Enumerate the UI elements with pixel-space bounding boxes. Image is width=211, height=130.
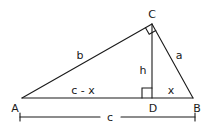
dimension-label-c: c — [107, 111, 113, 124]
side-label-h: h — [140, 64, 147, 77]
vertex-label-C: C — [148, 8, 156, 21]
vertex-label-B: B — [193, 102, 201, 115]
vertex-label-D: D — [149, 102, 157, 115]
right-angle-marker-D — [142, 88, 152, 98]
vertex-label-A: A — [11, 102, 19, 115]
side-label-b: b — [77, 49, 84, 62]
side-label-a: a — [176, 49, 183, 62]
side-label-c-minus-x: c - x — [71, 84, 95, 97]
side-label-x: x — [168, 84, 175, 97]
triangle-diagram: C A D B b a h c - x x c — [0, 0, 211, 130]
